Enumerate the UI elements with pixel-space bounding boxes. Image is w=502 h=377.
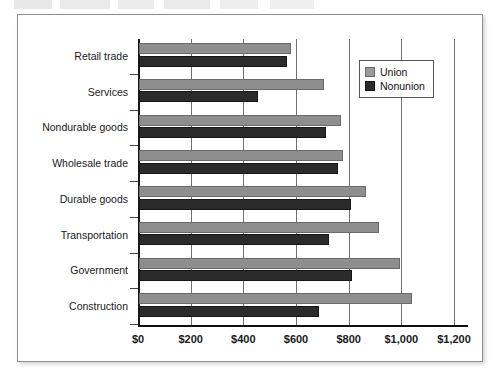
bar-nonunion — [139, 163, 338, 174]
x-tick-label: $200 — [178, 333, 202, 345]
bar-union — [139, 186, 366, 197]
x-tick-label: $1,000 — [385, 333, 419, 345]
category-label: Retail trade — [0, 50, 128, 62]
chart-legend: Union Nonunion — [359, 60, 434, 98]
bar-union — [139, 293, 412, 304]
x-tick-label: $400 — [231, 333, 255, 345]
category-label: Government — [0, 264, 128, 276]
bar-row: Nondurable goods — [18, 111, 482, 147]
category-label: Durable goods — [0, 193, 128, 205]
bar-union — [139, 115, 341, 126]
x-tick-label: $0 — [132, 333, 144, 345]
chart-figure-frame: Retail tradeServicesNondurable goodsWhol… — [17, 14, 483, 362]
bar-union — [139, 258, 400, 269]
bar-union — [139, 150, 343, 161]
bar-nonunion — [139, 56, 287, 67]
bar-nonunion — [139, 91, 258, 102]
nonunion-swatch-icon — [365, 81, 375, 91]
bar-row: Government — [18, 254, 482, 290]
category-label: Wholesale trade — [0, 157, 128, 169]
legend-label-nonunion: Nonunion — [380, 80, 425, 92]
bar-nonunion — [139, 234, 329, 245]
x-axis-tick-labels: $0$200$400$600$800$1,000$1,200 — [18, 333, 482, 351]
x-tick-label: $800 — [336, 333, 360, 345]
bar-union — [139, 79, 324, 90]
bar-nonunion — [139, 127, 326, 138]
category-label: Nondurable goods — [0, 121, 128, 133]
bar-union — [139, 43, 291, 54]
legend-item-union: Union — [365, 65, 425, 79]
bar-nonunion — [139, 270, 352, 281]
x-tick-label: $600 — [284, 333, 308, 345]
legend-item-nonunion: Nonunion — [365, 79, 425, 93]
bar-row: Construction — [18, 289, 482, 325]
bar-row: Transportation — [18, 218, 482, 254]
x-tick-label: $1,200 — [437, 333, 471, 345]
category-tick — [130, 324, 138, 325]
category-label: Construction — [0, 300, 128, 312]
bar-row: Durable goods — [18, 182, 482, 218]
category-label: Transportation — [0, 229, 128, 241]
bar-nonunion — [139, 306, 319, 317]
cropped-text-strip — [14, 0, 344, 9]
bar-row: Wholesale trade — [18, 146, 482, 182]
x-axis-line — [138, 325, 468, 327]
bar-union — [139, 222, 379, 233]
bar-nonunion — [139, 199, 351, 210]
category-label: Services — [0, 86, 128, 98]
legend-label-union: Union — [380, 66, 407, 78]
union-swatch-icon — [365, 67, 375, 77]
